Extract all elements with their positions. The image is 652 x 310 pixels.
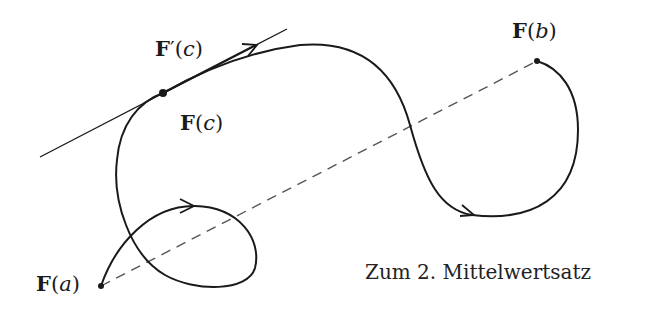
curve xyxy=(101,44,578,287)
mean-value-theorem-figure: F′(c) F(c) F(b) F(a) Zum 2. Mittelwertsa… xyxy=(0,0,652,310)
label-F-b: F(b) xyxy=(512,20,557,42)
label-F-c: F(c) xyxy=(180,112,223,134)
figure-caption: Zum 2. Mittelwertsatz xyxy=(365,262,591,282)
point-Fc xyxy=(159,89,167,97)
label-F-prime-c: F′(c) xyxy=(155,38,203,60)
label-F-a: F(a) xyxy=(36,273,80,295)
point-Fb xyxy=(534,58,540,64)
point-Fa xyxy=(98,283,104,289)
